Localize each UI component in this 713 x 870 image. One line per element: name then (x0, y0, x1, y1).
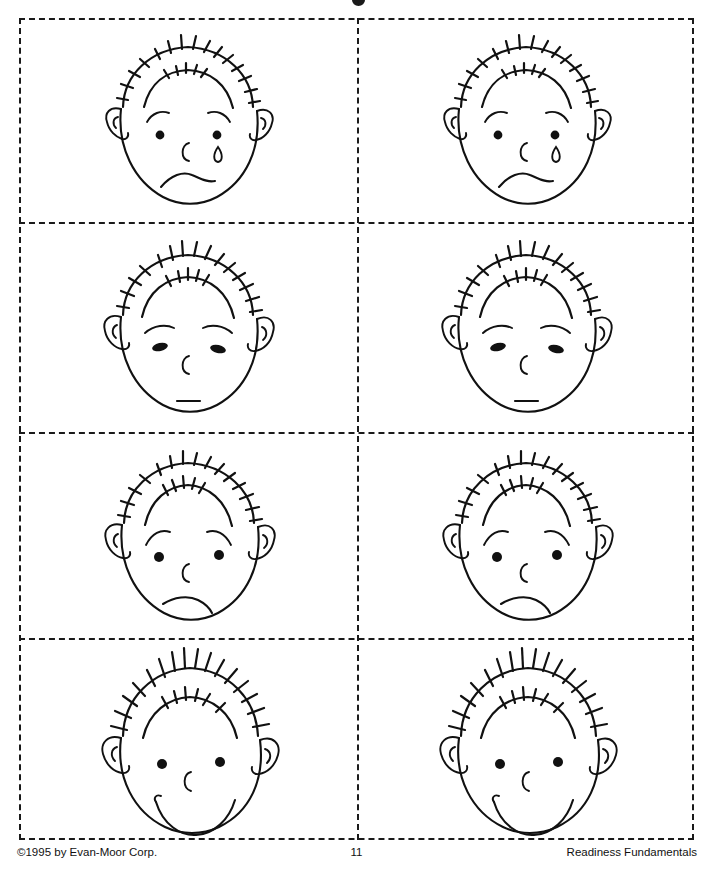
mouth-frown (499, 173, 553, 187)
card-row4-left[interactable] (19, 638, 357, 840)
angry-face-drawing (88, 437, 288, 633)
eyebrow-right (208, 111, 230, 121)
tear-drop (552, 147, 560, 162)
eyes (154, 550, 224, 562)
card-row3-left[interactable] (19, 432, 357, 638)
eyebrow-left-angled (146, 531, 170, 545)
eyes-half-closed (151, 341, 226, 354)
eyebrow-right (541, 326, 570, 333)
nose (522, 772, 528, 791)
eyebrow-left (147, 111, 169, 121)
eyes (492, 550, 562, 562)
hairline-sketch (483, 476, 570, 526)
hairline-sketch (142, 268, 234, 318)
eyebrow-right (203, 326, 232, 333)
ear-right (589, 738, 616, 774)
ear-left (444, 108, 466, 139)
nose (185, 772, 191, 791)
card-row4-right[interactable] (357, 638, 694, 840)
series-title: Readiness Fundamentals (567, 846, 697, 858)
ear-left (442, 316, 467, 349)
sleepy-face-drawing (88, 227, 288, 427)
eyes (495, 757, 563, 769)
nose (183, 143, 189, 161)
hairline-sketch (482, 63, 571, 108)
ear-left (102, 737, 129, 773)
happy-face-drawing (421, 642, 631, 837)
hair-sketch (456, 451, 600, 523)
cropped-title-artifact (352, 0, 365, 6)
angry-face-drawing (426, 437, 626, 633)
eyes (157, 757, 225, 769)
ear-left (443, 524, 468, 558)
eyebrow-left (483, 326, 512, 333)
cut-apart-grid (19, 18, 694, 840)
ear-left (440, 737, 467, 773)
hair-sketch (118, 451, 262, 523)
happy-face-drawing (83, 642, 293, 837)
nose (183, 356, 189, 374)
card-cells (19, 18, 694, 840)
card-row2-left[interactable] (19, 222, 357, 432)
nose (183, 564, 189, 582)
eyebrow-left (145, 326, 174, 333)
eyebrow-right-angled (207, 531, 231, 545)
ear-left (104, 316, 129, 349)
card-row1-left[interactable] (19, 18, 357, 222)
hair-spiky (449, 648, 607, 736)
nose (520, 143, 526, 161)
nose (520, 564, 526, 582)
hairline-sketch (481, 687, 575, 738)
ear-right (586, 525, 612, 559)
eyes (493, 130, 559, 139)
card-row3-right[interactable] (357, 432, 694, 638)
hairline-sketch (480, 268, 572, 318)
ear-right (587, 109, 610, 139)
mouth-crooked-frown (163, 597, 212, 613)
eyes (156, 130, 222, 139)
ear-left (105, 524, 130, 558)
mouth-smile (492, 795, 572, 835)
eyebrow-left-angled (484, 531, 508, 545)
eyebrow-right (546, 111, 568, 121)
page-footer: ©1995 by Evan-Moor Corp. 11 Readiness Fu… (0, 846, 713, 868)
eyebrow-left (485, 111, 507, 121)
ear-right (248, 317, 274, 351)
eyes-half-closed (489, 341, 564, 354)
mouth-frown (161, 173, 215, 187)
mouth-smile (155, 795, 235, 835)
ear-right (250, 109, 273, 139)
sad-face-drawing (88, 23, 288, 218)
mouth-crooked-frown (501, 597, 550, 613)
card-row2-right[interactable] (357, 222, 694, 432)
head-outline (120, 109, 257, 204)
worksheet-page: ©1995 by Evan-Moor Corp. 11 Readiness Fu… (0, 0, 713, 870)
hair-spiky (111, 648, 269, 736)
hairline-sketch (145, 476, 232, 526)
nose (520, 356, 526, 374)
ear-right (249, 525, 275, 559)
tear-drop (214, 147, 222, 162)
hairline-sketch (143, 687, 237, 738)
ear-right (585, 317, 611, 351)
ear-right (252, 738, 279, 774)
sleepy-face-drawing (426, 227, 626, 427)
eyebrow-right-angled (545, 531, 569, 545)
hairline-sketch (144, 63, 233, 108)
sad-face-drawing (426, 23, 626, 218)
card-row1-right[interactable] (357, 18, 694, 222)
ear-left (106, 108, 128, 139)
